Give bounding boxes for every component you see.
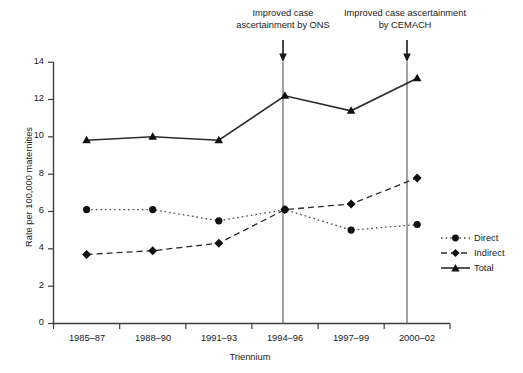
y-tick-label-12: 12	[20, 93, 44, 103]
legend-item-total: Total	[474, 263, 494, 273]
series-total-line	[87, 78, 418, 140]
y-tick-marks	[48, 62, 54, 323]
y-axis-title: Rate per 100,000 maternities	[24, 112, 34, 262]
legend-item-indirect: Indirect	[474, 248, 505, 258]
x-tick-label-1988-90: 1988–90	[120, 333, 186, 343]
legend-glyph-direct	[441, 235, 470, 242]
annotation-label-cemach-line2: by CEMACH	[300, 20, 510, 32]
axis-group	[53, 62, 450, 324]
annotation-arrows	[279, 40, 411, 62]
series-indirect-markers	[82, 173, 422, 259]
y-tick-label-14: 14	[20, 56, 44, 66]
series-total	[82, 74, 421, 144]
legend-glyphs	[441, 235, 470, 272]
x-tick-label-2000-02: 2000–02	[384, 333, 450, 343]
series-direct-line	[87, 210, 418, 231]
series-indirect-line	[87, 178, 418, 255]
x-tick-marks	[54, 324, 451, 330]
x-axis-title: Triennium	[190, 352, 310, 362]
x-tick-label-1994-96: 1994–96	[252, 333, 318, 343]
y-tick-label-0: 0	[26, 317, 44, 327]
series-direct	[83, 206, 421, 234]
legend-glyph-total	[441, 264, 470, 272]
line-chart-canvas	[0, 0, 523, 373]
annotation-label-cemach-line1: Improved case ascertainment	[300, 8, 510, 20]
x-tick-label-1991-93: 1991–93	[186, 333, 252, 343]
chart-figure: Improved case ascertainment by ONS Impro…	[0, 0, 523, 373]
annotation-lines	[283, 62, 407, 324]
y-tick-label-2: 2	[26, 280, 44, 290]
annotation-label-cemach: Improved case ascertainment by CEMACH	[300, 8, 510, 31]
down-arrow-icon-ons	[279, 40, 287, 62]
x-tick-label-1985-87: 1985–87	[54, 333, 120, 343]
down-arrow-icon-cemach	[403, 40, 411, 62]
x-tick-label-1997-99: 1997–99	[318, 333, 384, 343]
legend-glyph-indirect	[441, 249, 470, 257]
legend-item-direct: Direct	[474, 233, 498, 243]
series-indirect	[82, 173, 422, 259]
series-total-markers	[82, 74, 421, 144]
